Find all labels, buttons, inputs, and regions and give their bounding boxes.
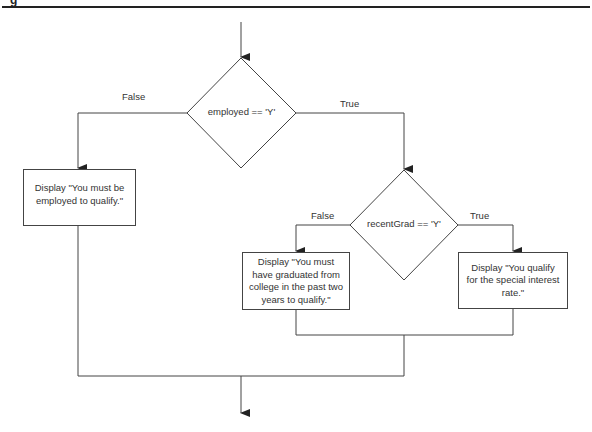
outer-merge xyxy=(78,225,404,376)
d1-true-path xyxy=(296,113,404,169)
inner-merge xyxy=(296,308,513,335)
label-d2-false: False xyxy=(311,210,334,221)
d2-false-path xyxy=(296,225,350,251)
d2-true-path xyxy=(458,225,513,251)
label-d1-true: True xyxy=(340,98,359,109)
process-not-recent-grad: Display "You must have graduated from co… xyxy=(242,252,350,310)
d1-false-path xyxy=(78,113,187,168)
label-d2-true: True xyxy=(470,210,489,221)
label-d1-false: False xyxy=(122,91,145,102)
decision-recentgrad-text: recentGrad == 'Y' xyxy=(350,218,458,229)
decision-employed-text: employed == 'Y' xyxy=(187,106,296,117)
process-not-employed: Display "You must be employed to qualify… xyxy=(23,169,136,226)
process-qualify: Display "You qualify for the special int… xyxy=(458,252,568,309)
